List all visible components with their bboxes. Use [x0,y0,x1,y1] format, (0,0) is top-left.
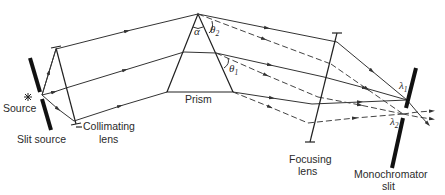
focusing-lens-label-2: lens [298,165,317,177]
alpha-symbol: α [194,25,200,37]
source-label: Source [3,102,36,114]
collimating-lens-label-1: Collimating [83,120,135,132]
prism-monochromator-diagram: Source Slit source Collimating lens Pris… [0,0,445,195]
prism-label: Prism [185,93,212,105]
theta1-symbol: θ1 [229,62,238,77]
theta1-arc [224,58,229,68]
monochromator-slit-label-2: slit [382,180,395,192]
collimating-lens [51,46,81,125]
theta2-symbol: θ2 [210,23,219,38]
focusing-lens [305,33,342,142]
lambda2-symbol: λ2 [389,115,399,130]
source-star-icon [24,93,32,101]
focusing-lens-label-1: Focusing [289,153,332,165]
monochromator-slit-label-1: Monochromator [354,168,428,180]
prism [167,14,233,92]
lambda1-symbol: λ1 [398,79,408,94]
slit-source-label: Slit source [17,133,66,145]
collimating-lens-label-2: lens [99,133,118,145]
monochromator-slit [392,68,416,168]
